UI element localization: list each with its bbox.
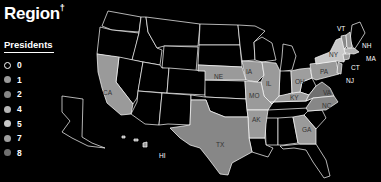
label-IL: IL bbox=[266, 80, 272, 87]
state-NM[interactable] bbox=[159, 93, 191, 125]
state-CT[interactable] bbox=[343, 54, 350, 60]
label-HI: HI bbox=[159, 152, 166, 159]
state-MI[interactable] bbox=[280, 44, 296, 72]
label-MA: MA bbox=[366, 55, 376, 62]
state-MA[interactable] bbox=[344, 48, 359, 54]
state-SD[interactable] bbox=[198, 45, 242, 67]
state-NJ[interactable] bbox=[337, 62, 342, 74]
us-map: CA NE IA IL MO AK TX HI OH KY PA NY VT N… bbox=[0, 0, 381, 182]
label-NC: NC bbox=[322, 102, 332, 109]
label-MO: MO bbox=[249, 92, 259, 99]
state-MT[interactable] bbox=[146, 17, 200, 48]
label-KY: KY bbox=[290, 94, 299, 101]
state-FL[interactable] bbox=[280, 144, 330, 178]
state-CO[interactable] bbox=[167, 68, 206, 95]
label-NE: NE bbox=[214, 73, 224, 80]
label-VT: VT bbox=[337, 25, 345, 32]
label-CA: CA bbox=[103, 89, 113, 96]
label-TX: TX bbox=[216, 141, 225, 148]
state-WI[interactable] bbox=[254, 37, 276, 62]
label-IA: IA bbox=[246, 68, 253, 75]
label-NJ: NJ bbox=[346, 77, 354, 84]
label-NY: NY bbox=[329, 51, 339, 58]
label-AR: AK bbox=[252, 116, 261, 123]
state-ND[interactable] bbox=[199, 24, 240, 45]
label-NH: NH bbox=[362, 42, 372, 49]
state-MS[interactable] bbox=[265, 118, 278, 145]
state-KS[interactable] bbox=[205, 80, 246, 99]
label-PA: PA bbox=[320, 68, 329, 75]
state-AK[interactable] bbox=[62, 96, 105, 148]
label-OH: OH bbox=[295, 78, 305, 85]
state-IN[interactable] bbox=[279, 71, 292, 96]
label-CT: CT bbox=[351, 64, 360, 71]
label-VA: VA bbox=[323, 89, 332, 96]
state-HI[interactable] bbox=[122, 136, 147, 147]
label-GA: GA bbox=[302, 126, 312, 133]
state-AR[interactable] bbox=[247, 110, 268, 138]
